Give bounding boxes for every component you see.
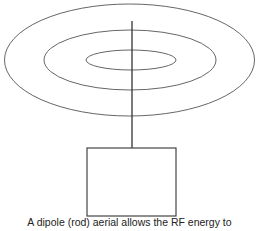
inner-radiation-ellipse: [86, 50, 176, 70]
transmitter-box: [87, 148, 176, 216]
outer-radiation-ellipse: [5, 4, 255, 116]
dipole-diagram: [0, 0, 259, 231]
figure-caption: A dipole (rod) aerial allows the RF ener…: [0, 216, 259, 228]
middle-radiation-ellipse: [44, 30, 216, 90]
